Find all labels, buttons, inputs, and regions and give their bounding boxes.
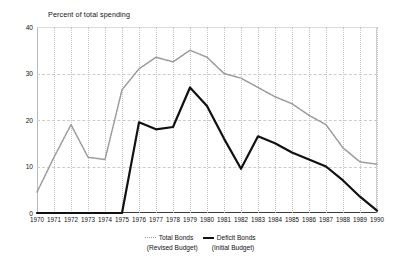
x-axis-tick-label: 1988 [336,216,350,224]
x-axis-tick-label: 1987 [319,216,333,224]
legend-row-names: Total BondsDeficit Bonds [0,232,401,242]
y-axis-tick-label: 30 [3,70,33,77]
legend-swatch-deficit-bonds-icon [203,237,214,239]
x-axis-tick-label: 1979 [183,216,197,224]
x-axis-tick-label: 1973 [81,216,95,224]
x-axis-tick-label: 1981 [217,216,231,224]
x-axis-tick-label: 1978 [166,216,180,224]
x-axis-tick-label: 1980 [200,216,214,224]
x-axis-tick-labels: 1970197119721973197419751976197719781979… [37,216,377,228]
x-axis-tick-label: 1970 [30,216,44,224]
x-axis-tick-label: 1971 [47,216,61,224]
legend-label-total-bonds: Total Bonds [159,234,193,241]
x-axis-tick-label: 1972 [64,216,78,224]
x-axis-tick-label: 1977 [149,216,163,224]
plot-area [37,27,377,213]
x-axis-tick-label: 1984 [268,216,282,224]
series-line-deficit-bonds [37,87,377,213]
y-axis-tick-label: 0 [3,210,33,217]
x-axis-tick-label: 1983 [251,216,265,224]
y-axis-tick-label: 20 [3,117,33,124]
legend-sublabel-total-bonds: (Revised Budget) [147,243,198,252]
x-axis-tick-label: 1986 [302,216,316,224]
x-axis-tick-label: 1985 [285,216,299,224]
x-axis-tick-label: 1990 [370,216,384,224]
y-axis-tick-labels: 010203040 [0,27,33,213]
gridline-vertical [377,27,378,213]
legend-entry-total-bonds: Total Bonds [145,233,193,242]
x-axis-tick-label: 1976 [132,216,146,224]
legend-swatch-total-bonds-icon [145,237,156,238]
y-axis-tick-label: 40 [3,24,33,31]
x-axis-tick-label: 1975 [115,216,129,224]
legend-row-sublabels: (Revised Budget)(Initial Budget) [0,243,401,252]
x-axis-tick-label: 1974 [98,216,112,224]
legend-sublabel-deficit-bonds: (Initial Budget) [212,243,255,252]
legend-label-deficit-bonds: Deficit Bonds [217,234,256,241]
legend-entry-deficit-bonds: Deficit Bonds [203,233,255,242]
x-axis-tick-label: 1989 [353,216,367,224]
series-line-total-bonds [37,50,377,192]
chart-title: Percent of total spending [48,10,130,19]
chart-figure: Percent of total spending 010203040 1970… [0,0,401,264]
plot-series-svg [37,27,377,213]
chart-legend: Total BondsDeficit Bonds (Revised Budget… [0,232,401,252]
x-axis-tick-label: 1982 [234,216,248,224]
y-axis-tick-label: 10 [3,163,33,170]
